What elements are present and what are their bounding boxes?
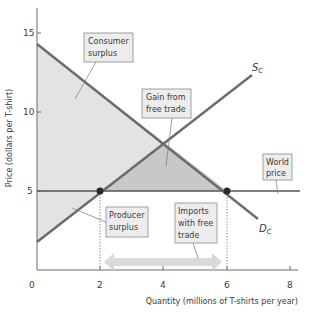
svg-text:trade: trade xyxy=(178,231,199,240)
svg-text:World: World xyxy=(266,158,289,167)
y-tick-5: 5 xyxy=(27,186,33,196)
svg-text:surplus: surplus xyxy=(109,223,138,232)
free-trade-chart: 15 10 5 0 2 4 6 8 Quantity (millions of … xyxy=(0,0,310,312)
svg-text:price: price xyxy=(266,169,286,178)
svg-text:Producer: Producer xyxy=(109,211,145,220)
world-price-annotation: World price xyxy=(263,154,292,180)
x-tick-8: 8 xyxy=(287,280,293,290)
y-tick-15: 15 xyxy=(23,28,34,38)
x-tick-2: 2 xyxy=(97,280,103,290)
gain-from-trade-annotation: Gain from free trade xyxy=(142,89,191,118)
x-tick-0: 0 xyxy=(29,280,35,290)
svg-text:Gain from: Gain from xyxy=(146,93,186,102)
y-tick-10: 10 xyxy=(23,107,35,117)
x-axis-title: Quantity (millions of T-shirts per year) xyxy=(146,297,298,306)
x-tick-4: 4 xyxy=(160,280,166,290)
svg-text:Imports: Imports xyxy=(178,207,209,216)
point-domestic-demand xyxy=(224,188,231,195)
y-axis-title: Price (dollars per T-shirt) xyxy=(5,89,14,187)
producer-surplus-annotation: Producer surplus xyxy=(106,207,148,237)
svg-text:surplus: surplus xyxy=(88,49,117,58)
svg-text:with free: with free xyxy=(178,219,213,228)
point-domestic-supply xyxy=(97,188,104,195)
demand-label: DC xyxy=(259,223,272,236)
x-tick-6: 6 xyxy=(224,280,230,290)
imports-annotation: Imports with free trade xyxy=(175,203,217,243)
svg-text:free trade: free trade xyxy=(146,105,186,114)
svg-text:Consumer: Consumer xyxy=(88,37,130,46)
supply-label: SC xyxy=(252,62,263,75)
consumer-surplus-annotation: Consumer surplus xyxy=(84,33,133,62)
